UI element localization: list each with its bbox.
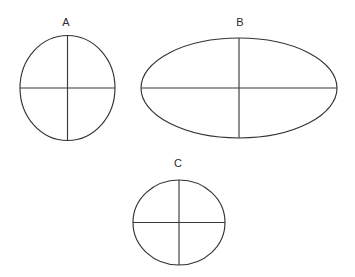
shape-label-b: B [236,16,244,28]
shape-group-c: C [133,157,225,265]
figure-canvas: A B C [0,0,355,277]
shape-group-a: A [20,16,115,141]
shape-label-a: A [62,16,70,28]
shape-label-c: C [174,157,182,169]
shape-group-b: B [141,16,337,138]
shapes-diagram: A B C [0,0,355,277]
